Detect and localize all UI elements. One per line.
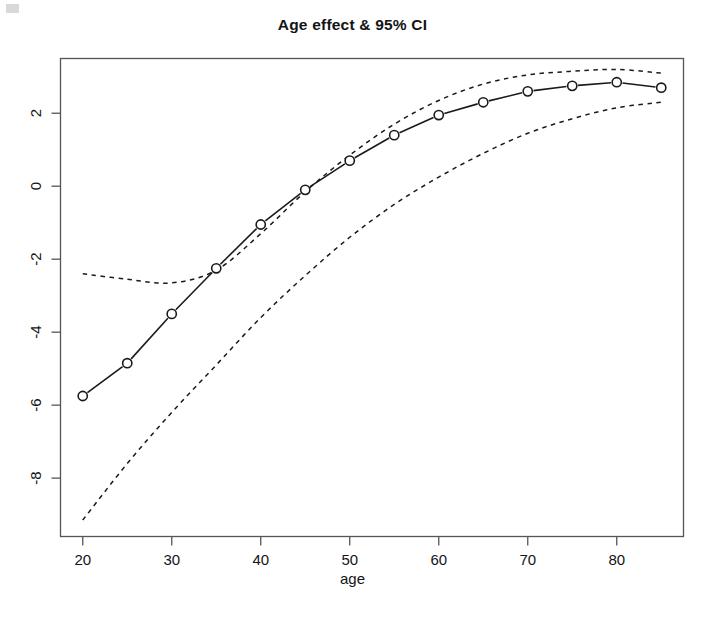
estimate-line-segment [131, 318, 168, 359]
confidence-interval-line [83, 69, 662, 283]
x-tick-label: 30 [163, 551, 180, 568]
estimate-line-segment [400, 117, 434, 132]
x-tick-label: 50 [341, 551, 358, 568]
axis-ticks [52, 113, 617, 545]
data-point-marker [78, 391, 87, 400]
x-tick-label: 60 [430, 551, 447, 568]
y-tick-label: -4 [26, 325, 43, 338]
data-point-marker [390, 131, 399, 140]
estimate-line-segment [578, 83, 611, 86]
data-point-marker [301, 185, 310, 194]
plot-frame [61, 59, 684, 537]
estimate-line-segment [265, 193, 300, 221]
data-point-marker [434, 110, 443, 119]
x-tick-label: 80 [608, 551, 625, 568]
figure-container: Age effect & 95% CI 20304050607080 20-2-… [0, 0, 705, 617]
x-tick-label: 20 [74, 551, 91, 568]
y-tick-label: 2 [26, 109, 43, 117]
y-tick-label: -2 [26, 253, 43, 266]
data-point-marker [167, 309, 176, 318]
data-point-marker [612, 78, 621, 87]
y-tick-label: -6 [26, 398, 43, 411]
data-point-marker [123, 359, 132, 368]
estimate-line-segment [489, 93, 522, 101]
y-tick-label: 0 [26, 182, 43, 190]
data-point-marker [345, 156, 354, 165]
estimate-line-segment [87, 367, 122, 393]
plot-border [61, 59, 684, 537]
estimate-line-segment [176, 272, 212, 309]
x-tick-label: 70 [519, 551, 536, 568]
estimate-line-segment [310, 164, 345, 187]
plot-canvas [0, 0, 705, 617]
x-axis-title: age [0, 570, 705, 587]
data-series-layer [78, 69, 666, 520]
data-point-marker [657, 83, 666, 92]
data-point-marker [568, 81, 577, 90]
y-tick-label: -8 [26, 471, 43, 484]
estimate-line-segment [444, 104, 477, 114]
data-point-marker [212, 264, 221, 273]
estimate-line-segment [534, 87, 567, 91]
estimate-line-segment [220, 229, 256, 265]
x-tick-label: 40 [252, 551, 269, 568]
estimate-line-segment [623, 83, 656, 87]
data-point-marker [479, 98, 488, 107]
data-point-marker [256, 220, 265, 229]
data-point-marker [523, 87, 532, 96]
